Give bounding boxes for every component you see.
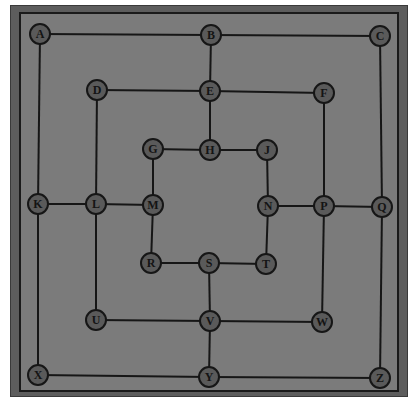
board-point-u[interactable]: U <box>85 309 107 331</box>
board-point-c[interactable]: C <box>369 25 391 47</box>
board-point-e[interactable]: E <box>199 80 221 102</box>
board-point-x[interactable]: X <box>27 364 49 386</box>
board-point-v[interactable]: V <box>199 310 221 332</box>
board-point-f[interactable]: F <box>313 82 335 104</box>
board-point-t[interactable]: T <box>255 253 277 275</box>
board-point-n[interactable]: N <box>257 195 279 217</box>
board-line-E-F <box>210 91 324 93</box>
board-point-a[interactable]: A <box>29 23 51 45</box>
board-point-b[interactable]: B <box>200 24 222 46</box>
board-line-Q-Z <box>380 207 382 378</box>
board-point-z[interactable]: Z <box>369 367 391 389</box>
board-point-y[interactable]: Y <box>198 366 220 388</box>
board-point-h[interactable]: H <box>199 139 221 161</box>
board-line-C-Q <box>380 36 382 207</box>
board-point-r[interactable]: R <box>140 252 162 274</box>
board-line-A-B <box>40 34 211 35</box>
board-line-V-W <box>210 321 322 322</box>
board-point-g[interactable]: G <box>142 138 164 160</box>
board-point-j[interactable]: J <box>256 139 278 161</box>
board-line-D-E <box>97 90 210 91</box>
board-line-B-C <box>211 35 380 36</box>
board-point-l[interactable]: L <box>85 193 107 215</box>
board-point-q[interactable]: Q <box>371 196 393 218</box>
board-line-U-V <box>96 320 210 321</box>
board-point-k[interactable]: K <box>27 193 49 215</box>
board-line-X-Y <box>38 375 209 377</box>
board-point-d[interactable]: D <box>86 79 108 101</box>
board-line-D-L <box>96 90 97 204</box>
board-point-m[interactable]: M <box>142 194 164 216</box>
board-point-w[interactable]: W <box>311 311 333 333</box>
board-line-P-W <box>322 206 324 322</box>
board-lines <box>0 0 417 415</box>
board-point-p[interactable]: P <box>313 195 335 217</box>
board-point-s[interactable]: S <box>198 252 220 274</box>
board-line-Y-Z <box>209 377 380 378</box>
board-line-A-K <box>38 34 40 204</box>
